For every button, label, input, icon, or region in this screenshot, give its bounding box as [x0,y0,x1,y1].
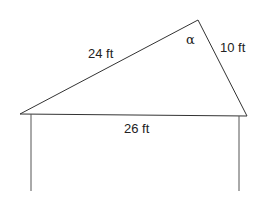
right-side-length-label: 10 ft [220,40,246,55]
roof-diagram: 24 ft α 10 ft 26 ft [0,0,262,198]
base-length-label: 26 ft [124,121,150,136]
roof-triangle [20,20,247,116]
left-side-length-label: 24 ft [88,46,114,61]
angle-alpha-label: α [186,32,195,47]
